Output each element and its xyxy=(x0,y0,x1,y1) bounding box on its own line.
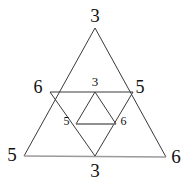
outer-triangle-base xyxy=(24,156,166,157)
label-inner-bottom-right: 6 xyxy=(117,115,130,127)
label-right-midpoint: 5 xyxy=(131,78,149,96)
label-bottom-right-vertex: 6 xyxy=(167,147,185,166)
label-bottom-midpoint: 3 xyxy=(86,161,104,180)
label-top-vertex: 3 xyxy=(86,6,104,25)
label-left-midpoint: 6 xyxy=(29,78,47,96)
label-bottom-left-vertex: 5 xyxy=(3,145,21,164)
inner-triangle-right-side xyxy=(95,92,116,124)
label-inner-bottom-left: 5 xyxy=(60,115,73,127)
inner-triangle-left-side xyxy=(76,92,95,124)
nested-triangles-figure: 3 5 6 6 5 3 3 5 6 xyxy=(0,0,189,184)
label-inner-apex: 3 xyxy=(88,75,102,88)
